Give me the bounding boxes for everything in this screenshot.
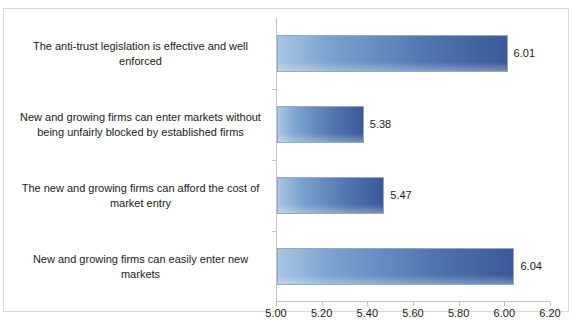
x-axis-tick-label: 6.00 <box>481 307 527 319</box>
y-axis-tick <box>272 160 276 161</box>
x-axis-tick <box>550 302 551 306</box>
bar-highlight <box>278 204 383 213</box>
x-axis-tick-label: 6.20 <box>527 307 573 319</box>
plot-area: 5.005.205.405.605.806.006.20 6.015.385.4… <box>276 18 569 302</box>
x-axis-tick-label: 5.60 <box>390 307 436 319</box>
bar-value-label: 6.01 <box>514 47 535 59</box>
x-axis-tick-label: 5.40 <box>344 307 390 319</box>
bar-highlight <box>278 275 513 284</box>
bar[interactable] <box>277 35 508 72</box>
x-axis-tick <box>413 302 414 306</box>
category-label: New and growing firms can easily enter n… <box>8 252 273 282</box>
y-axis-tick <box>272 89 276 90</box>
x-axis-tick <box>322 302 323 306</box>
x-axis-tick <box>459 302 460 306</box>
category-axis-labels: The anti-trust legislation is effective … <box>8 18 273 302</box>
x-axis-tick-label: 5.00 <box>253 307 299 319</box>
bar[interactable] <box>277 248 514 285</box>
x-axis-tick-label: 5.80 <box>436 307 482 319</box>
x-axis-tick <box>276 302 277 306</box>
x-axis-tick <box>367 302 368 306</box>
y-axis-tick <box>272 231 276 232</box>
bar-value-label: 5.47 <box>390 189 411 201</box>
chart-frame: The anti-trust legislation is effective … <box>3 8 569 312</box>
bar[interactable] <box>277 106 364 143</box>
category-label: The new and growing firms can afford the… <box>8 181 273 211</box>
bar-value-label: 5.38 <box>370 118 391 130</box>
category-label: The anti-trust legislation is effective … <box>8 39 273 69</box>
bar-value-label: 6.04 <box>520 260 541 272</box>
bar-highlight <box>278 133 363 142</box>
category-label: New and growing firms can enter markets … <box>8 110 273 140</box>
bar-highlight <box>278 62 507 71</box>
x-axis-tick-label: 5.20 <box>299 307 345 319</box>
x-axis-tick <box>504 302 505 306</box>
bar[interactable] <box>277 177 384 214</box>
